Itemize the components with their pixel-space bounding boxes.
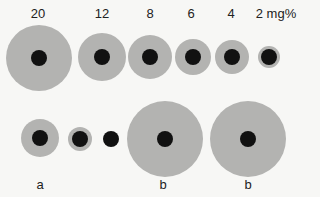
label-a: a — [36, 177, 43, 192]
disc-center — [224, 49, 240, 65]
disc-center — [103, 131, 119, 147]
label-b-1: b — [159, 177, 166, 192]
disc-center — [72, 131, 88, 147]
disc-center — [240, 131, 256, 147]
conc-label-4: 4 — [227, 6, 234, 21]
conc-label-8: 8 — [146, 6, 153, 21]
label-b-2: b — [244, 177, 251, 192]
conc-label-20: 20 — [31, 6, 45, 21]
disc-center — [31, 50, 47, 66]
disc-center — [32, 130, 48, 146]
disc-center — [185, 49, 201, 65]
conc-label-2mg: 2 mg% — [256, 6, 296, 21]
disc-center — [142, 49, 158, 65]
disc-center — [157, 131, 173, 147]
conc-label-6: 6 — [187, 6, 194, 21]
disc-center — [261, 49, 277, 65]
conc-label-12: 12 — [95, 6, 109, 21]
disc-center — [94, 49, 110, 65]
